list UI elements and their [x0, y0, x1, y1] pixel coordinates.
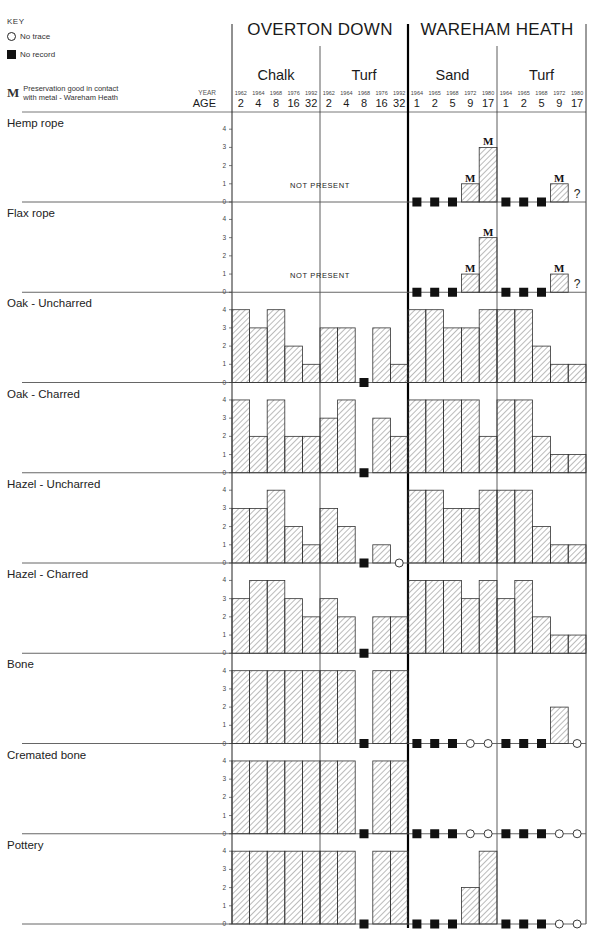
bar — [550, 184, 568, 202]
bar — [444, 328, 462, 383]
bar — [267, 580, 285, 653]
bar — [373, 328, 391, 383]
metal-m-icon: M — [465, 262, 476, 274]
no-record-icon — [360, 829, 369, 838]
bar — [267, 671, 285, 744]
bar — [232, 400, 250, 473]
bar — [320, 418, 338, 473]
no-record-icon — [519, 739, 528, 748]
bar — [550, 274, 568, 292]
bar — [550, 707, 568, 743]
no-record-icon — [537, 920, 546, 929]
no-record-icon — [430, 829, 439, 838]
bar — [479, 436, 497, 472]
no-trace-icon — [555, 920, 563, 928]
no-record-icon — [430, 198, 439, 207]
bar — [250, 761, 268, 834]
bar — [302, 364, 320, 382]
bar — [285, 599, 303, 654]
bar — [302, 671, 320, 744]
bar — [479, 238, 497, 293]
bar — [426, 580, 444, 653]
bar — [338, 671, 356, 744]
no-record-icon — [537, 198, 546, 207]
no-record-icon — [448, 198, 457, 207]
no-record-icon — [430, 288, 439, 297]
bar — [302, 617, 320, 653]
bar — [250, 580, 268, 653]
bar — [426, 400, 444, 473]
bar — [479, 147, 497, 202]
bar — [338, 328, 356, 383]
bar — [232, 671, 250, 744]
bar — [479, 490, 497, 563]
bar — [250, 436, 268, 472]
preservation-chart: NOT PRESENTMMM?NOT PRESENTMMM? — [0, 0, 606, 941]
bar — [338, 761, 356, 834]
no-record-icon — [448, 920, 457, 929]
bar — [461, 599, 479, 654]
bar — [408, 580, 426, 653]
bar — [408, 400, 426, 473]
no-trace-icon — [573, 830, 581, 838]
bar — [302, 851, 320, 924]
no-trace-icon — [466, 740, 474, 748]
bar — [338, 400, 356, 473]
no-record-icon — [537, 288, 546, 297]
bar — [285, 671, 303, 744]
no-record-icon — [412, 288, 421, 297]
no-record-icon — [360, 649, 369, 658]
bar — [285, 851, 303, 924]
bar — [390, 436, 408, 472]
no-record-icon — [412, 920, 421, 929]
bar — [232, 508, 250, 563]
bar — [267, 851, 285, 924]
bar — [320, 851, 338, 924]
no-record-icon — [519, 829, 528, 838]
bar — [285, 527, 303, 563]
no-record-icon — [412, 198, 421, 207]
bar — [320, 671, 338, 744]
no-record-icon — [501, 288, 510, 297]
bar — [461, 274, 479, 292]
bar — [320, 761, 338, 834]
bar — [232, 599, 250, 654]
bar — [533, 346, 551, 382]
bar — [373, 761, 391, 834]
bar — [285, 761, 303, 834]
no-record-icon — [412, 829, 421, 838]
metal-m-icon: M — [554, 262, 565, 274]
bar — [479, 310, 497, 383]
bar — [515, 580, 533, 653]
no-record-icon — [519, 288, 528, 297]
metal-m-icon: M — [465, 172, 476, 184]
bar — [444, 580, 462, 653]
bar — [444, 400, 462, 473]
bar — [267, 490, 285, 563]
bar — [250, 671, 268, 744]
bar — [250, 508, 268, 563]
bar — [568, 364, 586, 382]
bar — [426, 310, 444, 383]
bar — [461, 184, 479, 202]
bar — [426, 490, 444, 563]
bar — [250, 328, 268, 383]
no-record-icon — [430, 739, 439, 748]
bar — [285, 436, 303, 472]
no-record-icon — [448, 829, 457, 838]
bar — [250, 851, 268, 924]
bar — [550, 635, 568, 653]
metal-m-icon: M — [554, 172, 565, 184]
no-record-icon — [360, 739, 369, 748]
bar — [267, 761, 285, 834]
bar — [497, 310, 515, 383]
bar — [568, 455, 586, 473]
no-trace-icon — [555, 830, 563, 838]
bar — [320, 599, 338, 654]
bar — [408, 490, 426, 563]
metal-m-icon: M — [483, 226, 494, 238]
bar — [320, 508, 338, 563]
no-record-icon — [360, 378, 369, 387]
bar — [568, 635, 586, 653]
bar — [515, 310, 533, 383]
